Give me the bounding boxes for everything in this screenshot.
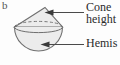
cone-height-callout-label: Cone height (86, 1, 116, 25)
cone-shape (15, 8, 63, 28)
cone-callout-line-2: height (86, 13, 116, 25)
geometry-figure: b Cone height Hemis (0, 0, 120, 65)
hemisphere-callout-label: Hemis (86, 37, 117, 49)
part-letter-label: b (2, 0, 8, 11)
